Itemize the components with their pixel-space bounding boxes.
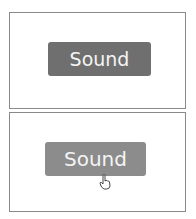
hand-pointer-icon bbox=[99, 174, 111, 190]
hover-state-panel: Sound bbox=[9, 112, 186, 212]
sound-button-hover[interactable]: Sound bbox=[45, 142, 146, 176]
sound-button[interactable]: Sound bbox=[48, 42, 151, 76]
default-state-panel: Sound bbox=[9, 12, 186, 109]
sound-button-label: Sound bbox=[64, 147, 127, 171]
